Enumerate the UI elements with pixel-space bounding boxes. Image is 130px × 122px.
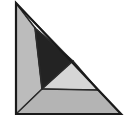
figure-canvas xyxy=(0,0,130,122)
triangle-dissection-figure xyxy=(0,0,130,122)
edge-horizontal-base-divider xyxy=(42,89,98,90)
